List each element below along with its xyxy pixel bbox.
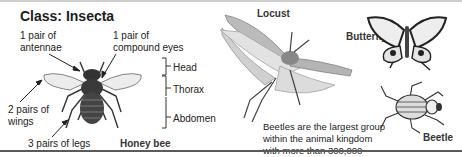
insect-diagram: Class: Insecta 1 pair of antennae 1 pair… [0, 0, 462, 157]
body-part-brackets [162, 58, 171, 128]
illustrations [0, 0, 462, 157]
bottom-rule [0, 150, 462, 152]
beetle-illustration [381, 82, 444, 133]
honeybee-illustration [44, 62, 141, 128]
butterfly-illustration [368, 17, 446, 70]
locust-illustration [220, 15, 352, 122]
